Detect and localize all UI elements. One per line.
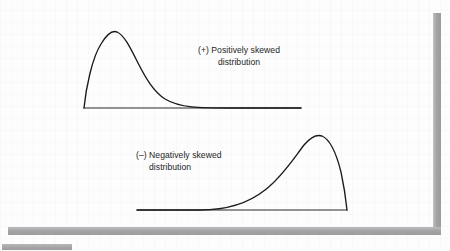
distribution-curves-plot (0, 0, 450, 251)
scan-edge-artifact-bottom (8, 227, 441, 235)
negative-skew-caption-line2: distribution (136, 162, 222, 174)
scan-edge-artifact-right (433, 13, 441, 234)
skewness-figure: (+) Positively skewed distribution (–) N… (0, 0, 450, 251)
positive-skew-group (84, 32, 301, 109)
negative-skew-caption-line1: (–) Negatively skewed (136, 150, 222, 160)
positive-skew-caption-line1: (+) Positively skewed (198, 45, 280, 55)
negative-skew-caption: (–) Negatively skewed distribution (136, 150, 222, 173)
positive-skew-caption-line2: distribution (198, 57, 280, 69)
positive-skew-curve (84, 32, 301, 109)
positive-skew-caption: (+) Positively skewed distribution (198, 45, 280, 68)
scan-edge-artifact-bottom-left (2, 244, 72, 250)
